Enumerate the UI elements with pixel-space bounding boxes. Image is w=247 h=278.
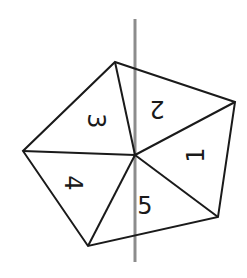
section-label-4: 4 bbox=[59, 175, 87, 190]
section-label-5: 5 bbox=[137, 192, 152, 220]
section-label-1: 1 bbox=[182, 147, 210, 162]
pentagon-diagram: 32145 bbox=[0, 0, 247, 278]
section-label-3: 3 bbox=[82, 113, 110, 128]
section-label-2: 2 bbox=[149, 95, 164, 123]
spoke-line-1 bbox=[115, 62, 135, 155]
diagram-svg: 32145 bbox=[0, 0, 247, 278]
spoke-line-4 bbox=[88, 155, 135, 246]
spoke-line-5 bbox=[23, 151, 135, 155]
